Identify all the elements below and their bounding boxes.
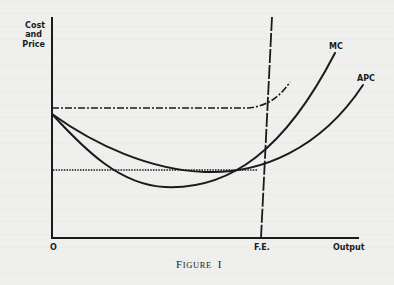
price-line [52,82,290,108]
cost-curve-diagram: Cost and Price MC APC O F.E. Output FIGU… [0,0,394,285]
fe-label: F.E. [254,243,270,252]
y-axis-label-line-2: and [25,30,42,39]
mc-curve [52,53,335,187]
x-axis-label: Output [333,243,365,252]
full-employment-line [261,17,272,238]
caption-number: I [218,258,222,270]
figure-caption: FIGUREI [176,258,222,270]
origin-label: O [50,243,57,252]
y-axis-label-line-3: Price [22,40,45,49]
mc-label: MC [329,42,343,51]
apc-label: APC [357,74,375,83]
caption-initial: F [176,258,183,270]
y-axis-label-line-1: Cost [25,21,45,30]
caption-rest: IGURE [183,260,212,270]
